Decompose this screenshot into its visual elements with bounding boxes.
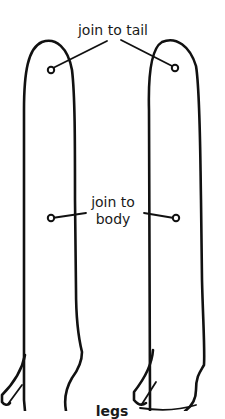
right-body-joint-marker <box>173 215 179 221</box>
right-tail-joint-marker <box>172 65 178 71</box>
right-leg-outline <box>149 40 204 411</box>
join-to-tail-label: join to tail <box>76 22 150 38</box>
tail-leader-right <box>121 40 174 67</box>
left-leg-outline <box>24 41 82 411</box>
join-to-body-label-line1: join to <box>80 194 146 210</box>
left-body-joint-marker <box>48 215 54 221</box>
join-to-body-label-line2: body <box>80 211 146 227</box>
left-tail-joint-marker <box>48 67 54 73</box>
piece-name-label: legs <box>82 403 142 419</box>
